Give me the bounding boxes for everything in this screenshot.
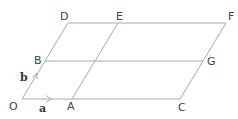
label-E: E: [116, 10, 123, 23]
label-F: F: [228, 10, 234, 23]
label-G: G: [207, 55, 216, 68]
label-O: O: [9, 100, 18, 113]
label-D: D: [60, 10, 68, 23]
parallelogram-diagram: D E F B G O A C b a: [0, 0, 238, 119]
vector-label-b: b: [20, 71, 28, 84]
label-B: B: [34, 54, 42, 67]
label-C: C: [178, 101, 186, 114]
label-A: A: [67, 100, 75, 113]
vector-label-a: a: [39, 102, 46, 115]
